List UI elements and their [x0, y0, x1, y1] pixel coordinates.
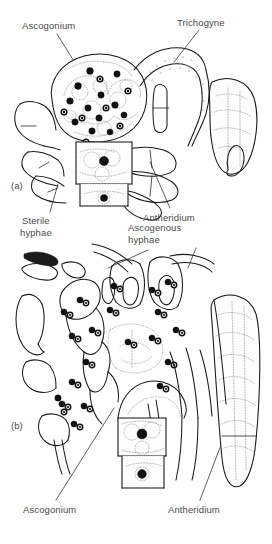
antheridium-a	[210, 79, 257, 176]
figure-root: Ascogonium Trichogyne Sterile hyphae Ant…	[0, 0, 272, 544]
nucleus-pair	[149, 335, 161, 344]
nucleus-pair	[111, 283, 123, 292]
nucleus-pair	[157, 383, 169, 392]
label-sterile-hyphae: Sterile hyphae	[20, 215, 52, 238]
central-small-cell	[153, 85, 169, 133]
ascogonium-stalk-b	[118, 381, 186, 488]
nucleus-pair	[155, 309, 167, 318]
nucleus-pair	[83, 359, 95, 368]
nucleus-pair	[59, 401, 71, 410]
nucleus-pair	[81, 403, 93, 412]
label-trichogyne: Trichogyne	[177, 17, 225, 29]
ascogonium-cell-a	[51, 54, 146, 145]
panel-b-group	[16, 244, 260, 500]
ascogonium-stalk-a	[76, 142, 132, 206]
antheridium-b	[211, 295, 260, 487]
label-ascogenous-hyphae: Ascogenous hyphae	[128, 222, 181, 245]
label-antheridium-bottom: Antheridium	[168, 504, 220, 516]
panel-a-group	[15, 30, 257, 220]
label-ascogonium-bottom: Ascogonium	[23, 504, 76, 516]
biology-diagram-svg	[0, 0, 272, 544]
leader-trichogyne	[174, 30, 199, 62]
nucleus-pair	[71, 421, 83, 430]
leader-ascogenous	[108, 250, 148, 268]
nucleus-pair	[173, 327, 185, 336]
nucleus-pair	[69, 333, 81, 342]
panel-label-a: (a)	[11, 180, 23, 191]
nucleus-pair	[77, 297, 89, 306]
nucleus-pair	[107, 307, 119, 316]
dikaryotic-nuclei	[59, 279, 185, 430]
sterile-hyphae-b-left	[16, 294, 70, 474]
nucleus-pair	[69, 379, 81, 388]
nucleus-pair	[125, 339, 137, 348]
trichogyne-stipple	[145, 56, 204, 110]
leader-ascogenous-2	[188, 248, 196, 268]
ascogenous-cytoplasm	[108, 324, 163, 373]
nucleus-pair	[89, 327, 101, 336]
panel-label-b: (b)	[11, 420, 23, 431]
nucleus-pair	[165, 279, 177, 288]
label-ascogonium-top: Ascogonium	[22, 20, 75, 32]
